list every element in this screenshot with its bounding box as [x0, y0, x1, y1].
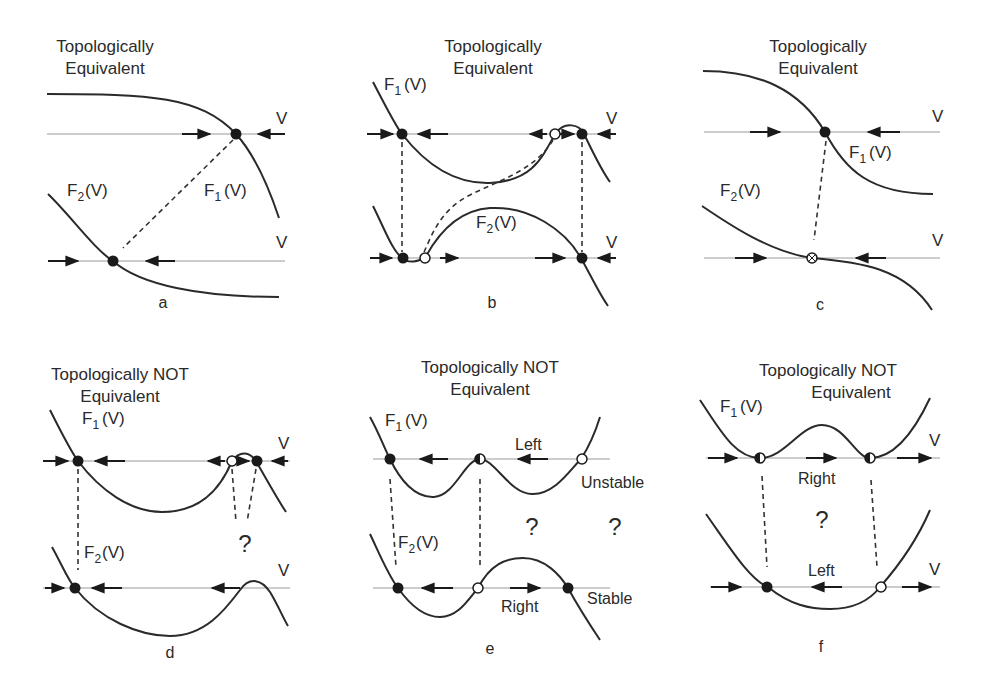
panel-e-question-1: ? [525, 513, 538, 540]
panel-d-title-2: Equivalent [80, 387, 160, 406]
panel-f-f1-label: F1(V) [720, 397, 763, 420]
semistable-point-icon [755, 453, 765, 463]
panel-b-curve-f2 [373, 206, 608, 306]
panel-d-v-bottom: V [278, 561, 290, 580]
panel-d-f2-label: F2(V) [84, 543, 125, 566]
unstable-point-icon [876, 582, 886, 592]
stable-point-icon [398, 253, 409, 264]
panel-d-title-1: Topologically NOT [51, 365, 189, 384]
semistable-point-icon [865, 453, 875, 463]
panel-f-label-left: Left [808, 562, 835, 579]
stable-point-icon [252, 456, 263, 467]
stable-point-icon [385, 454, 396, 465]
stable-point-icon [73, 456, 84, 467]
panel-a-title-1: Topologically [56, 37, 154, 56]
panel-e-caption: e [486, 640, 495, 657]
panel-d-question: ? [238, 530, 251, 557]
panel-b-v-bottom: V [606, 233, 618, 252]
stable-point-icon [762, 582, 773, 593]
stable-point-icon [393, 583, 404, 594]
panel-e-label-unstable: Unstable [581, 474, 644, 491]
panel-d-question-dash-right [247, 469, 256, 522]
semistable-point-icon [475, 454, 485, 464]
panel-f-question: ? [815, 506, 828, 533]
stable-point-icon [577, 129, 588, 140]
panel-d-v-top: V [278, 434, 290, 453]
panel-c-f2-label: F2(V) [720, 181, 761, 204]
stable-point-icon [108, 256, 119, 267]
panel-c-v-top: V [932, 107, 944, 126]
panel-f-title-1: Topologically NOT [759, 361, 897, 380]
panel-c-v-bottom: V [932, 231, 944, 250]
stable-point-icon [397, 129, 408, 140]
panel-c-title-2: Equivalent [778, 59, 858, 78]
panel-b-curve-f1 [373, 82, 610, 183]
unstable-point-icon [420, 253, 430, 263]
semistable-crossed-point-icon [807, 253, 817, 263]
panel-b-title-2: Equivalent [453, 59, 533, 78]
panel-b: Topologically Equivalent V V F1(V) F2(V)… [367, 37, 618, 311]
unstable-point-icon [550, 129, 560, 139]
panel-f-caption: f [819, 638, 824, 655]
panel-b-v-top: V [606, 109, 618, 128]
stable-point-icon [820, 127, 831, 138]
panel-e-question-2: ? [608, 513, 621, 540]
panel-e-f2-label: F2(V) [398, 533, 439, 556]
panel-e-mapping-dash-left [390, 479, 396, 567]
panel-a-f1-label: F1(V) [204, 181, 247, 204]
panel-e-title-2: Equivalent [450, 380, 530, 399]
panel-c-f1-label: F1(V) [849, 143, 892, 166]
panel-f-v-top: V [929, 431, 941, 450]
panel-b-caption: b [488, 294, 497, 311]
panel-c: Topologically Equivalent V V F1(V) F2(V)… [702, 37, 944, 313]
panel-e: Topologically NOT Equivalent Left Unstab… [370, 358, 644, 657]
panel-a-title-2: Equivalent [65, 59, 145, 78]
panel-f: Topologically NOT Equivalent V V Right L… [700, 361, 941, 655]
topological-equivalence-figure: Topologically Equivalent V V F1(V) F2(V)… [0, 0, 984, 694]
panel-e-title-1: Topologically NOT [421, 358, 559, 377]
panel-b-f1-label: F1(V) [384, 75, 427, 98]
panel-a-f2-label: F2(V) [67, 181, 108, 204]
panel-d-caption: d [166, 644, 175, 661]
stable-point-icon [563, 583, 574, 594]
panel-a-v-bottom: V [276, 233, 288, 252]
panel-f-title-2: Equivalent [811, 383, 891, 402]
panel-f-label-right: Right [798, 470, 836, 487]
panel-a: Topologically Equivalent V V F1(V) F2(V)… [47, 37, 288, 311]
panel-e-label-stable: Stable [587, 590, 632, 607]
panel-f-mapping-dash-left [762, 476, 767, 567]
stable-point-icon [70, 583, 81, 594]
panel-f-mapping-dash-right [871, 480, 877, 567]
panel-c-caption: c [816, 296, 824, 313]
unstable-point-icon [473, 583, 483, 593]
panel-c-mapping-dash [814, 141, 826, 240]
unstable-point-icon [577, 454, 587, 464]
panel-a-curve-f2 [48, 194, 279, 297]
panel-a-v-top: V [276, 109, 288, 128]
stable-point-icon [231, 129, 242, 140]
panel-b-f2-label: F2(V) [476, 213, 517, 236]
panel-f-v-bottom: V [929, 560, 941, 579]
panel-a-caption: a [159, 294, 168, 311]
panel-c-title-1: Topologically [769, 37, 867, 56]
panel-e-label-left: Left [515, 436, 542, 453]
panel-e-label-right: Right [501, 598, 539, 615]
panel-e-f1-label: F1(V) [385, 411, 428, 434]
panel-b-title-1: Topologically [444, 37, 542, 56]
panel-d: Topologically NOT Equivalent V V ? F1(V)… [43, 365, 290, 661]
stable-point-icon [577, 253, 588, 264]
panel-d-f1-label: F1(V) [82, 409, 125, 432]
unstable-point-icon [227, 456, 237, 466]
panel-d-question-dash-left [232, 469, 236, 522]
